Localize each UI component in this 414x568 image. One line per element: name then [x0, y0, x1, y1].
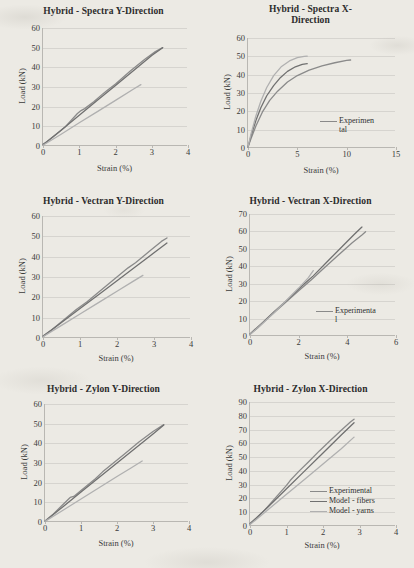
y-tick-label: 0: [243, 521, 247, 531]
chart-spectra-x: Hybrid - Spectra X-Direction010203040506…: [207, 0, 414, 190]
chart-vectran-x: Hybrid - Vectran X-Direction010203040506…: [207, 190, 414, 378]
chart-title: Hybrid - Zylon Y-Direction: [0, 384, 207, 395]
chart-legend: Experimental: [320, 116, 374, 135]
y-tick-label: 40: [239, 466, 248, 476]
chart-title: Hybrid - Spectra Y-Direction: [0, 6, 207, 17]
series-line: [43, 48, 163, 145]
x-tick-mark: [191, 337, 192, 340]
y-tick-label: 70: [239, 425, 248, 435]
x-tick-mark: [396, 525, 397, 528]
x-tick-mark: [396, 335, 397, 338]
chart-spectra-y: Hybrid - Spectra Y-Direction010203040506…: [0, 0, 207, 190]
legend-line-swatch: [320, 121, 337, 122]
chart-legend: Experimental: [316, 306, 376, 325]
y-tick-label: 40: [32, 62, 41, 72]
chart-title: Hybrid - Spectra X-Direction: [207, 4, 414, 26]
chart-zylon-y: Hybrid - Zylon Y-Direction01020304050600…: [0, 378, 207, 568]
y-tick-label: 30: [237, 88, 246, 98]
x-tick-label: 4: [186, 147, 190, 157]
y-tick-label: 50: [34, 419, 43, 429]
series-line: [43, 243, 167, 336]
series-line: [45, 425, 164, 521]
chart-zylon-x: Hybrid - Zylon X-Direction01020304050607…: [207, 378, 414, 568]
legend-label: Model - yarns: [329, 506, 374, 515]
y-tick-label: 0: [36, 333, 40, 343]
x-tick-label: 2: [115, 339, 119, 349]
plot-area: 010203040506070809001234ExperimentalMode…: [249, 402, 395, 526]
series-line: [43, 85, 141, 146]
x-tick-label: 5: [295, 149, 299, 159]
legend-entry: Model - fibers: [310, 496, 375, 505]
x-tick-label: 2: [115, 523, 119, 533]
y-tick-label: 40: [32, 252, 41, 262]
y-tick-label: 60: [239, 226, 248, 236]
legend-label-line: Experimen: [339, 116, 374, 125]
x-tick-label: 1: [79, 523, 83, 533]
chart-title-line: Hybrid - Spectra X-: [207, 4, 414, 15]
series-line: [45, 461, 142, 521]
x-tick-label: 10: [342, 149, 351, 159]
legend-label-line: Experimenta: [335, 306, 376, 315]
x-tick-label: 0: [41, 339, 45, 349]
x-tick-label: 1: [78, 339, 82, 349]
x-tick-label: 0: [248, 337, 252, 347]
x-axis-label: Strain (%): [249, 540, 395, 550]
y-tick-label: 30: [239, 279, 248, 289]
x-tick-label: 4: [187, 523, 191, 533]
y-tick-label: 40: [239, 261, 248, 271]
chart-vectran-y: Hybrid - Vectran Y-Direction010203040506…: [0, 190, 207, 378]
chart-title: Hybrid - Vectran X-Direction: [207, 196, 414, 207]
legend-line-swatch: [310, 501, 327, 502]
x-tick-label: 0: [43, 523, 47, 533]
y-tick-label: 0: [38, 517, 42, 527]
chart-cell-vectran-y: Hybrid - Vectran Y-Direction010203040506…: [0, 190, 207, 378]
series-line: [43, 275, 143, 336]
legend-entry: Experimental: [316, 306, 376, 324]
plot-area: 0102030405060051015Experimental: [247, 38, 395, 148]
x-tick-label: 15: [392, 149, 401, 159]
legend-entry: Experimental: [310, 486, 375, 495]
y-tick-label: 60: [237, 33, 246, 43]
y-tick-label: 60: [239, 438, 248, 448]
y-tick-label: 60: [34, 399, 43, 409]
y-tick-label: 40: [237, 70, 246, 80]
y-tick-label: 30: [32, 272, 41, 282]
y-axis-label: Load (kN): [19, 444, 29, 480]
series-line: [248, 56, 307, 147]
y-tick-label: 10: [32, 121, 41, 131]
y-tick-label: 20: [239, 296, 248, 306]
y-tick-label: 10: [34, 497, 43, 507]
x-tick-mark: [189, 521, 190, 524]
x-tick-label: 2: [297, 337, 301, 347]
legend-line-swatch: [316, 311, 333, 312]
x-axis-label: Strain (%): [42, 163, 187, 173]
plot-area: 0102030405060700246Experimental: [249, 214, 395, 336]
plot-area: 010203040506001234: [44, 404, 188, 522]
y-tick-label: 10: [237, 125, 246, 135]
y-tick-label: 50: [239, 452, 248, 462]
x-tick-label: 4: [394, 527, 398, 537]
y-tick-label: 90: [239, 397, 248, 407]
x-tick-label: 4: [189, 339, 193, 349]
y-tick-label: 40: [34, 438, 43, 448]
x-tick-label: 1: [284, 527, 288, 537]
chart-cell-spectra-y: Hybrid - Spectra Y-Direction010203040506…: [0, 0, 207, 190]
series-line: [248, 64, 307, 147]
legend-label-line: tal: [339, 125, 374, 134]
y-tick-label: 30: [34, 458, 43, 468]
y-tick-label: 60: [32, 211, 41, 221]
x-tick-mark: [396, 147, 397, 150]
chart-title: Hybrid - Vectran Y-Direction: [0, 196, 207, 207]
x-axis-label: Strain (%): [42, 353, 190, 363]
y-axis-label: Load (kN): [222, 74, 232, 110]
chart-title-line: Direction: [207, 15, 414, 26]
x-axis-label: Strain (%): [247, 165, 395, 175]
x-tick-mark: [188, 145, 189, 148]
y-tick-label: 10: [239, 507, 248, 517]
x-axis-label: Strain (%): [249, 351, 395, 361]
y-tick-label: 50: [32, 231, 41, 241]
legend-label: Experimental: [329, 486, 372, 495]
y-tick-label: 80: [239, 411, 248, 421]
y-tick-label: 60: [32, 23, 41, 33]
y-tick-label: 20: [239, 493, 248, 503]
